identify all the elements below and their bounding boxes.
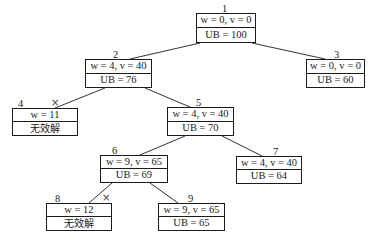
tree-node-3: w = 0, v = 0 UB = 60 xyxy=(306,59,365,88)
edge-1-3 xyxy=(252,43,325,59)
node-8-infeasible: 无效解 xyxy=(47,217,111,230)
node-2-state: w = 4, v = 40 xyxy=(86,60,151,74)
node-5-upper-bound: UB = 70 xyxy=(168,122,233,136)
node-9-upper-bound: UB = 65 xyxy=(159,217,224,230)
node-7-state: w = 4, v = 40 xyxy=(237,157,301,170)
node-1-upper-bound: UB = 100 xyxy=(197,28,255,42)
tree-node-9: w = 9, v = 65 UB = 65 xyxy=(158,203,225,231)
node-5-state: w = 4, v = 40 xyxy=(168,108,233,122)
node-1-state: w = 0, v = 0 xyxy=(197,14,255,28)
prune-cross-icon: × xyxy=(102,193,110,203)
node-4-state: w = 11 xyxy=(13,109,77,122)
edge-5-7 xyxy=(222,136,262,156)
edge-6-9 xyxy=(150,183,178,203)
node-6-state: w = 9, v = 65 xyxy=(101,156,167,169)
node-9-state: w = 9, v = 65 xyxy=(159,204,224,217)
node-4-infeasible: 无效解 xyxy=(13,122,77,135)
edge-1-2 xyxy=(130,43,200,59)
tree-node-7: w = 4, v = 40 UB = 64 xyxy=(236,156,302,184)
node-3-upper-bound: UB = 60 xyxy=(307,74,364,88)
prune-cross-icon: × xyxy=(51,98,59,108)
node-3-state: w = 0, v = 0 xyxy=(307,60,364,74)
tree-node-1: w = 0, v = 0 UB = 100 xyxy=(196,13,256,43)
node-7-upper-bound: UB = 64 xyxy=(237,170,301,183)
tree-node-2: w = 4, v = 40 UB = 76 xyxy=(85,59,152,88)
node-2-upper-bound: UB = 76 xyxy=(86,74,151,88)
edge-2-4 xyxy=(55,88,105,108)
node-6-upper-bound: UB = 69 xyxy=(101,169,167,182)
node-8-state: w = 12 xyxy=(47,204,111,217)
tree-node-6: w = 9, v = 65 UB = 69 xyxy=(100,155,168,183)
tree-node-4: w = 11 无效解 xyxy=(12,108,78,136)
tree-node-8: w = 12 无效解 xyxy=(46,203,112,231)
tree-node-5: w = 4, v = 40 UB = 70 xyxy=(167,107,234,136)
edge-2-5 xyxy=(145,88,190,107)
edge-5-6 xyxy=(140,136,185,155)
